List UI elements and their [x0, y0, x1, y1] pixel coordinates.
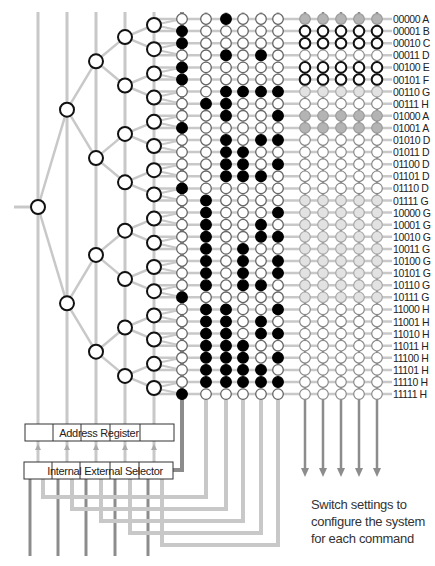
output-node-icon: [354, 219, 365, 230]
switch-off-icon: [273, 98, 284, 109]
switch-off-icon: [256, 159, 267, 170]
row-label: 11010 H: [393, 328, 429, 340]
switch-off-icon: [221, 268, 232, 279]
tree-node-icon: [118, 321, 132, 335]
output-node-icon: [318, 340, 329, 351]
caption-line-2: configure the system: [311, 513, 425, 530]
switch-off-icon: [177, 207, 188, 218]
output-node-icon: [354, 62, 365, 73]
switch-off-icon: [238, 328, 249, 339]
switch-off-icon: [256, 353, 267, 364]
switch-off-icon: [273, 14, 284, 25]
output-node-icon: [354, 74, 365, 85]
output-node-icon: [318, 183, 329, 194]
output-node-icon: [372, 195, 383, 206]
switch-off-icon: [177, 340, 188, 351]
row-label: 00011 D: [393, 49, 430, 61]
output-node-icon: [318, 98, 329, 109]
row-label: 01101 D: [393, 170, 430, 182]
output-node-icon: [300, 123, 311, 134]
switch-off-icon: [221, 292, 232, 303]
row-label: 01001 A: [393, 122, 429, 134]
switch-off-icon: [256, 256, 267, 267]
output-node-icon: [372, 159, 383, 170]
tree-node-icon: [118, 79, 132, 93]
switch-off-icon: [201, 183, 212, 194]
output-node-icon: [300, 183, 311, 194]
switch-on-icon: [256, 232, 267, 243]
tree-node-icon: [89, 248, 103, 262]
switch-on-icon: [238, 377, 249, 388]
switch-on-icon: [201, 232, 212, 243]
switch-off-icon: [273, 365, 284, 376]
output-node-icon: [372, 377, 383, 388]
output-node-icon: [354, 316, 365, 327]
switch-on-icon: [256, 328, 267, 339]
switch-on-icon: [273, 304, 284, 315]
row-label: 01110 D: [393, 182, 429, 194]
switch-on-icon: [201, 98, 212, 109]
switch-off-icon: [273, 62, 284, 73]
switch-off-icon: [256, 340, 267, 351]
output-node-icon: [354, 256, 365, 267]
output-node-icon: [354, 340, 365, 351]
switch-off-icon: [201, 38, 212, 49]
switch-off-icon: [201, 123, 212, 134]
output-node-icon: [372, 219, 383, 230]
switch-on-icon: [238, 365, 249, 376]
output-node-icon: [372, 280, 383, 291]
switch-off-icon: [201, 50, 212, 61]
output-node-icon: [354, 111, 365, 122]
output-node-icon: [336, 159, 347, 170]
switch-off-icon: [201, 159, 212, 170]
output-node-icon: [336, 340, 347, 351]
output-node-icon: [354, 292, 365, 303]
switch-off-icon: [256, 389, 267, 400]
switch-off-icon: [177, 50, 188, 61]
tree-node-icon: [147, 212, 161, 226]
switch-off-icon: [238, 232, 249, 243]
switch-on-icon: [273, 159, 284, 170]
switch-off-icon: [221, 195, 232, 206]
tree-node-icon: [147, 115, 161, 129]
switch-off-icon: [273, 389, 284, 400]
output-node-icon: [372, 26, 383, 37]
output-node-icon: [354, 377, 365, 388]
output-node-icon: [372, 389, 383, 400]
tree-node-icon: [118, 175, 132, 189]
output-node-icon: [318, 353, 329, 364]
output-node-icon: [336, 304, 347, 315]
output-node-icon: [300, 135, 311, 146]
output-node-icon: [318, 304, 329, 315]
output-node-icon: [372, 111, 383, 122]
switch-off-icon: [221, 26, 232, 37]
switch-on-icon: [273, 207, 284, 218]
switch-on-icon: [256, 219, 267, 230]
switch-off-icon: [201, 292, 212, 303]
output-node-icon: [354, 38, 365, 49]
switch-on-icon: [238, 280, 249, 291]
switch-on-icon: [201, 268, 212, 279]
switch-off-icon: [273, 183, 284, 194]
switch-on-icon: [201, 244, 212, 255]
switch-off-icon: [177, 232, 188, 243]
output-node-icon: [318, 195, 329, 206]
output-node-icon: [318, 147, 329, 158]
tree-node-icon: [118, 224, 132, 238]
switch-off-icon: [221, 232, 232, 243]
output-node-icon: [372, 292, 383, 303]
output-node-icon: [300, 256, 311, 267]
switch-on-icon: [177, 292, 188, 303]
tree-node-icon: [89, 54, 103, 68]
output-node-icon: [318, 62, 329, 73]
output-node-icon: [336, 256, 347, 267]
switch-off-icon: [273, 74, 284, 85]
switch-off-icon: [273, 171, 284, 182]
tree-node-icon: [31, 200, 45, 214]
switch-off-icon: [177, 171, 188, 182]
switch-on-icon: [256, 86, 267, 97]
row-label: 11111 H: [393, 388, 427, 400]
output-node-icon: [318, 365, 329, 376]
output-node-icon: [372, 147, 383, 158]
switch-off-icon: [238, 292, 249, 303]
